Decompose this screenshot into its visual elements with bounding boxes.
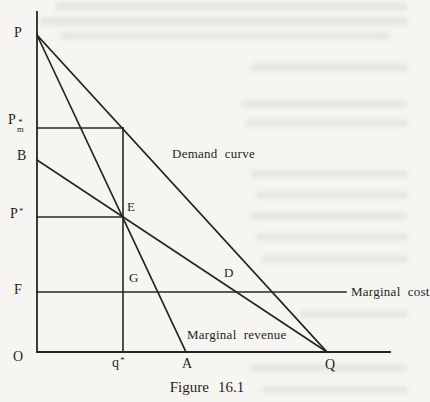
b-to-q-line: [37, 160, 327, 352]
label-p: P: [14, 26, 22, 40]
label-g: G: [129, 271, 139, 284]
figure-caption: Figure 16.1: [0, 379, 414, 396]
label-p-star: P*: [10, 207, 24, 221]
label-pm-star: P*m: [8, 113, 24, 132]
demand-curve-line: [37, 35, 327, 352]
label-q: Q: [325, 358, 335, 372]
label-o: O: [13, 350, 23, 364]
label-d: D: [224, 266, 234, 279]
label-b: B: [17, 149, 27, 163]
marginal-revenue-line: [37, 35, 186, 352]
label-q-star: q*: [112, 356, 125, 370]
label-e: E: [127, 200, 135, 213]
label-marginal-cost: Marginal cost: [351, 285, 430, 298]
label-demand-curve: Demand curve: [172, 147, 255, 160]
label-a: A: [182, 357, 192, 371]
label-marginal-revenue: Marginal revenue: [187, 328, 287, 341]
label-f: F: [14, 283, 22, 297]
